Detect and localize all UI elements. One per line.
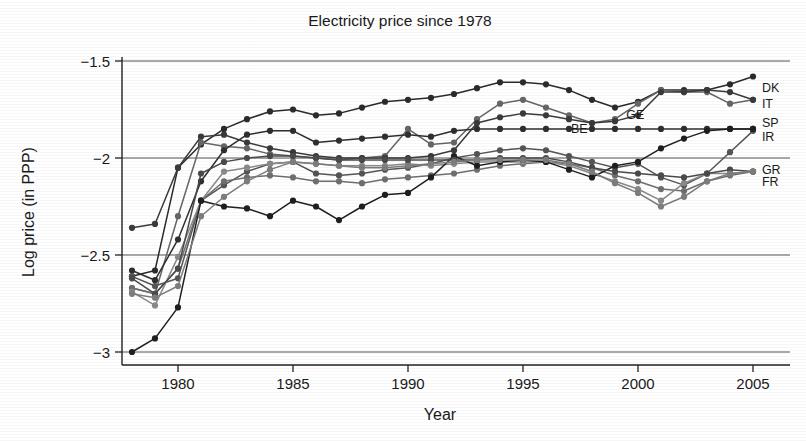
data-point (727, 81, 733, 87)
y-tick-label-0: −1.5 (80, 53, 110, 70)
data-point (152, 295, 158, 301)
electricity-price-chart: Electricity price since 1978 −1.5−2−2.5−… (0, 0, 806, 441)
x-tick-label-1: 1985 (276, 375, 309, 392)
data-point (290, 153, 296, 159)
data-point (750, 97, 756, 103)
data-point (543, 81, 549, 87)
series-label-FR: FR (762, 175, 779, 189)
data-point (267, 153, 273, 159)
data-point (589, 120, 595, 126)
data-point (267, 213, 273, 219)
data-point (336, 172, 342, 178)
data-point (405, 157, 411, 163)
data-point (451, 139, 457, 145)
data-point (382, 176, 388, 182)
data-point (382, 157, 388, 163)
data-point (359, 170, 365, 176)
data-point (612, 104, 618, 110)
data-point (543, 157, 549, 163)
y-axis-title: Log price (in PPP) (20, 147, 37, 277)
data-point (175, 283, 181, 289)
data-point (428, 141, 434, 147)
data-point (635, 126, 641, 132)
data-point (727, 89, 733, 95)
data-point (405, 132, 411, 138)
data-point (152, 335, 158, 341)
data-point (543, 147, 549, 153)
data-point (221, 132, 227, 138)
data-point (152, 267, 158, 273)
data-point (635, 178, 641, 184)
data-point (175, 165, 181, 171)
data-point (244, 139, 250, 145)
data-point (382, 192, 388, 198)
series-label-DK: DK (762, 81, 780, 95)
data-point (658, 172, 664, 178)
data-point (497, 114, 503, 120)
data-point (290, 159, 296, 165)
data-point (750, 126, 756, 132)
data-point (336, 110, 342, 116)
data-point (244, 145, 250, 151)
data-point (589, 168, 595, 174)
data-point (198, 134, 204, 140)
data-point (313, 139, 319, 145)
series-label-SP: SP (762, 116, 779, 130)
data-point (612, 163, 618, 169)
data-point (520, 126, 526, 132)
data-point (681, 126, 687, 132)
data-point (451, 159, 457, 165)
data-point (681, 194, 687, 200)
data-point (221, 147, 227, 153)
data-point (635, 190, 641, 196)
data-point (313, 170, 319, 176)
data-point (359, 203, 365, 209)
data-point (566, 87, 572, 93)
data-point (129, 225, 135, 231)
data-point (405, 163, 411, 169)
data-point (681, 188, 687, 194)
data-point (382, 99, 388, 105)
data-point (520, 145, 526, 151)
data-point (497, 157, 503, 163)
data-point (267, 161, 273, 167)
data-point (313, 178, 319, 184)
data-point (635, 170, 641, 176)
data-point (681, 174, 687, 180)
data-point (336, 157, 342, 163)
data-point (704, 170, 710, 176)
data-point (727, 170, 733, 176)
x-tick-label-2: 1990 (391, 375, 424, 392)
data-point (405, 126, 411, 132)
data-point (658, 145, 664, 151)
chart-title: Electricity price since 1978 (308, 12, 492, 29)
series-label-IR: IR (762, 130, 775, 144)
data-point (635, 101, 641, 107)
data-point (267, 145, 273, 151)
data-point (221, 168, 227, 174)
data-point (474, 126, 480, 132)
data-point (520, 97, 526, 103)
data-point (152, 283, 158, 289)
data-point (313, 203, 319, 209)
data-point (750, 168, 756, 174)
data-point (658, 186, 664, 192)
data-point (727, 149, 733, 155)
data-point (520, 79, 526, 85)
data-point (221, 126, 227, 132)
data-point (290, 106, 296, 112)
data-point (267, 108, 273, 114)
data-point (267, 172, 273, 178)
data-point (543, 104, 549, 110)
data-point (405, 190, 411, 196)
data-point (152, 302, 158, 308)
data-point (497, 79, 503, 85)
data-point (543, 126, 549, 132)
data-point (566, 167, 572, 173)
data-point (359, 180, 365, 186)
data-point (474, 120, 480, 126)
data-point (589, 174, 595, 180)
data-point (566, 161, 572, 167)
data-point (244, 205, 250, 211)
data-point (681, 180, 687, 186)
